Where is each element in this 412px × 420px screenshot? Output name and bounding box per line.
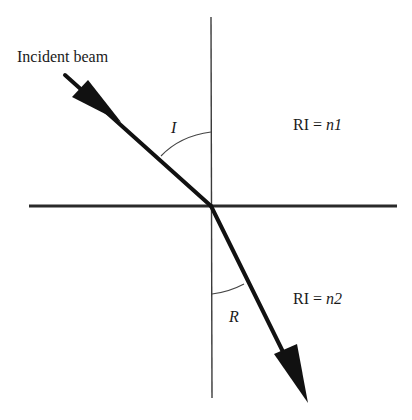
angle-arc-refraction [212,284,244,294]
medium-top-var: n1 [326,116,342,133]
medium-bottom-var: n2 [326,290,342,307]
refraction-diagram: Incident beam I R RI = n1 RI = n2 [0,0,412,420]
medium-bottom-prefix: RI = [293,290,326,307]
incident-ray [65,75,211,206]
medium-top-label: RI = n1 [293,116,342,133]
angle-refraction-label: R [228,308,239,325]
medium-top-prefix: RI = [293,116,326,133]
incident-beam-label: Incident beam [17,48,109,65]
angle-incidence-label: I [170,119,177,136]
angle-arc-incidence [161,132,211,156]
medium-bottom-label: RI = n2 [293,290,342,307]
refracted-arrowhead-icon [274,344,308,403]
